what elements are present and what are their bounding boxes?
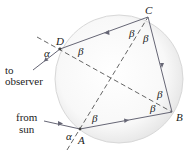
label-point-c: C (145, 4, 153, 16)
angle-alpha-d: α (44, 47, 50, 59)
angle-beta-b-upper: β (156, 88, 163, 100)
angle-beta-b-lower: β (149, 102, 156, 114)
label-point-d: D (55, 35, 64, 47)
point-a-dot (79, 128, 82, 131)
from-sun-line1: from (16, 111, 38, 123)
angle-beta-c-right: β (142, 32, 149, 44)
raindrop-diagram: A B C D α α β β β β β β to observer from… (0, 0, 188, 156)
label-point-a: A (77, 134, 85, 146)
angle-beta-a: β (91, 112, 98, 124)
angle-beta-d: β (77, 45, 84, 57)
point-d-dot (59, 48, 62, 51)
angle-beta-c-left: β (128, 27, 135, 39)
from-sun-line2: sun (19, 123, 35, 135)
angle-alpha-a: α (66, 130, 72, 142)
label-point-b: B (176, 111, 183, 123)
to-observer-line2: observer (5, 75, 43, 87)
